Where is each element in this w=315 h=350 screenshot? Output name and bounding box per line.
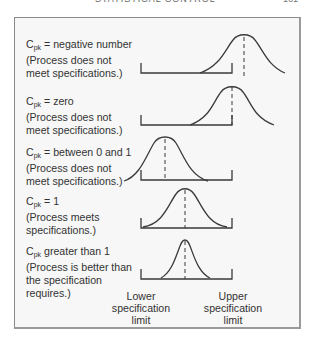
upper-spec-limit-label: Upper specification limit — [193, 290, 273, 326]
lower-spec-limit-label: Lower specification limit — [101, 290, 181, 326]
curve-one — [141, 189, 232, 228]
curve-between — [124, 137, 232, 181]
curve-negative — [141, 35, 285, 78]
curve-zero — [141, 87, 274, 125]
curve-greater — [141, 240, 232, 279]
